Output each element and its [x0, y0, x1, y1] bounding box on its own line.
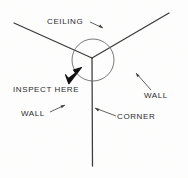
label-wall-right: WALL	[144, 91, 168, 100]
label-inspect-here: INSPECT HERE	[13, 85, 79, 94]
diagram-canvas: CEILING INSPECT HERE WALL WALL CORNER	[0, 0, 188, 178]
label-ceiling: CEILING	[47, 17, 83, 26]
label-wall-left: WALL	[21, 109, 45, 118]
label-corner: CORNER	[117, 112, 155, 121]
wall-corner-edge-line	[92, 58, 93, 166]
